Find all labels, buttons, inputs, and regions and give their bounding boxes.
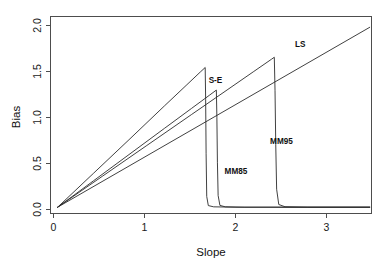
- y-axis-ticks: [46, 26, 51, 210]
- y-tick-label-1-0: 1.0: [31, 110, 43, 125]
- x-tick-label-0: 0: [51, 221, 57, 233]
- series-annotation-layer: LSS-EMM85MM95: [209, 40, 306, 176]
- series-label-mm85: MM85: [225, 167, 248, 176]
- y-tick-label-0-5: 0.5: [31, 156, 43, 171]
- y-tick-label-2-0: 2.0: [31, 18, 43, 33]
- x-tick-label-2: 2: [233, 221, 239, 233]
- y-axis-tick-labels: 2.0 1.5 1.0 0.5 0.0: [31, 18, 43, 217]
- x-axis-tick-labels: 0 1 2 3: [51, 221, 330, 233]
- series-line-ls: [58, 27, 370, 207]
- series-layer: [58, 27, 370, 207]
- x-axis-title: Slope: [196, 246, 225, 258]
- series-line-mm85: [58, 90, 370, 207]
- chart-figure: 2.0 1.5 1.0 0.5 0.0 Bias 0 1 2 3 Slope L…: [0, 0, 384, 280]
- series-label-ls: LS: [295, 40, 306, 49]
- y-tick-label-1-5: 1.5: [31, 64, 43, 79]
- series-label-s-e: S-E: [209, 76, 223, 85]
- x-axis-ticks: [54, 214, 327, 219]
- x-tick-label-3: 3: [324, 221, 330, 233]
- bias-vs-slope-plot: 2.0 1.5 1.0 0.5 0.0 Bias 0 1 2 3 Slope L…: [0, 0, 384, 280]
- y-axis-title: Bias: [10, 106, 22, 129]
- y-tick-label-0-0: 0.0: [31, 202, 43, 217]
- series-label-mm95: MM95: [270, 137, 293, 146]
- x-tick-label-1: 1: [142, 221, 148, 233]
- series-line-s-e: [58, 68, 370, 208]
